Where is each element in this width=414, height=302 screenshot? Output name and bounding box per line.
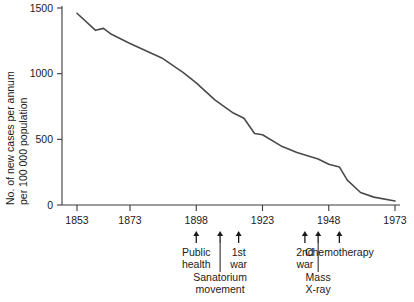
annotation-label-line2: movement — [196, 283, 245, 295]
annotation-label-line2: war — [295, 258, 313, 270]
event-annotations: PublichealthSanatoriummovement1stwar2ndw… — [182, 231, 375, 295]
annotation-arrowhead — [193, 231, 199, 236]
x-tick-label: 1948 — [317, 214, 341, 226]
annotation-label-line1: Sanatorium — [193, 271, 247, 283]
y-tick-label: 500 — [35, 133, 53, 145]
x-tick-label: 1973 — [383, 214, 407, 226]
x-tick-label: 1923 — [251, 214, 275, 226]
annotation-label-line1: Chemotherapy — [305, 246, 375, 258]
annotation-arrowhead — [302, 231, 308, 236]
y-tick-label: 1000 — [30, 67, 54, 79]
annotation-label-line1: 1st — [232, 246, 246, 258]
data-series-line — [77, 13, 395, 201]
x-tick-label: 1873 — [118, 214, 142, 226]
annotation-group: 1stwar — [229, 231, 247, 270]
x-axis-ticks: 185318731898192319481973 — [65, 205, 407, 226]
y-tick-label: 1500 — [30, 2, 54, 14]
y-axis-title-line2: per 100 000 population — [17, 97, 29, 205]
y-axis-ticks: 050010001500 — [30, 2, 62, 211]
annotation-arrowhead — [217, 231, 223, 236]
annotation-arrowhead — [236, 231, 242, 236]
annotation-label-line2: X-ray — [306, 283, 332, 295]
y-tick-label: 0 — [47, 199, 53, 211]
annotation-arrowhead — [315, 231, 321, 236]
x-tick-label: 1898 — [185, 214, 209, 226]
annotation-group: Chemotherapy — [305, 231, 375, 258]
tuberculosis-decline-chart: No. of new cases per annum per 100 000 p… — [0, 0, 414, 302]
annotation-label-line2: war — [229, 258, 247, 270]
annotation-group: Publichealth — [182, 231, 211, 270]
annotation-label-line1: Public — [182, 246, 211, 258]
chart-canvas: No. of new cases per annum per 100 000 p… — [0, 0, 414, 302]
annotation-label-line1: Mass — [306, 271, 331, 283]
y-axis-title-line1: No. of new cases per annum — [4, 71, 16, 205]
x-tick-label: 1853 — [65, 214, 89, 226]
annotation-arrowhead — [336, 231, 342, 236]
y-axis-title: No. of new cases per annum per 100 000 p… — [4, 71, 29, 205]
annotation-label-line2: health — [182, 258, 211, 270]
